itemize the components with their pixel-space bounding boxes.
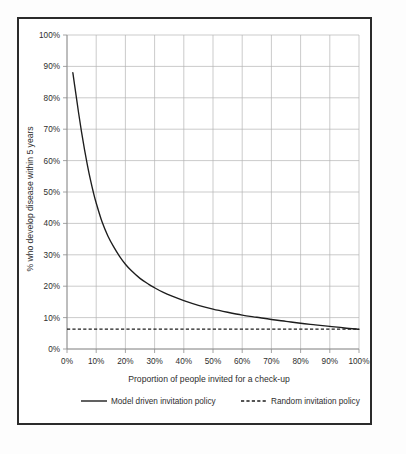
y-axis-tick-label: 30%	[44, 251, 60, 260]
axis-tick-marks	[63, 35, 359, 353]
x-axis-tick-label: 20%	[117, 357, 133, 366]
y-axis-tick-label: 40%	[44, 219, 60, 228]
legend-label: Model driven invitation policy	[111, 397, 217, 406]
y-axis-tick-label: 0%	[48, 345, 60, 354]
x-axis-tick-label: 70%	[263, 357, 279, 366]
chart-canvas: 0%10%20%30%40%50%60%70%80%90%100% 0%10%2…	[19, 19, 370, 423]
y-axis-tick-label: 60%	[44, 157, 60, 166]
y-axis-tick-label: 80%	[44, 94, 60, 103]
y-axis-title: % who develop disease within 5 years	[25, 126, 35, 271]
x-axis-tick-labels: 0%10%20%30%40%50%60%70%80%90%100%	[61, 357, 369, 366]
legend-label: Random invitation policy	[271, 397, 361, 406]
x-axis-tick-label: 30%	[146, 357, 162, 366]
x-axis-tick-label: 50%	[205, 357, 221, 366]
line-chart: 0%10%20%30%40%50%60%70%80%90%100% 0%10%2…	[19, 19, 370, 423]
y-axis-tick-labels: 0%10%20%30%40%50%60%70%80%90%100%	[39, 31, 60, 354]
y-axis-tick-label: 70%	[44, 125, 60, 134]
y-axis-tick-label: 10%	[44, 314, 60, 323]
x-axis-tick-label: 10%	[88, 357, 104, 366]
series-line-solid	[73, 73, 359, 330]
y-axis-tick-label: 50%	[44, 188, 60, 197]
x-axis-tick-label: 90%	[322, 357, 338, 366]
x-axis-tick-label: 40%	[176, 357, 192, 366]
y-axis-tick-label: 100%	[39, 31, 60, 40]
x-axis-tick-label: 100%	[349, 357, 370, 366]
x-axis-tick-label: 60%	[234, 357, 250, 366]
y-axis-tick-label: 90%	[44, 62, 60, 71]
figure-container: 0%10%20%30%40%50%60%70%80%90%100% 0%10%2…	[0, 0, 406, 454]
y-axis-tick-label: 20%	[44, 282, 60, 291]
chart-legend: Model driven invitation policyRandom inv…	[81, 397, 361, 406]
x-axis-tick-label: 80%	[292, 357, 308, 366]
figure-border-frame: 0%10%20%30%40%50%60%70%80%90%100% 0%10%2…	[17, 17, 372, 425]
x-axis-tick-label: 0%	[61, 357, 73, 366]
x-axis-title: Proportion of people invited for a check…	[128, 374, 290, 384]
